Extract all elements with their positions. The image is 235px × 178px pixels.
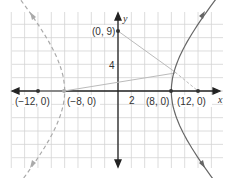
hyperbola-right-branch (171, 0, 235, 178)
hyperbola-chart: (−12, 0) (−8, 0) (8, 0) (12, 0) (0, 9) 2… (0, 0, 235, 178)
tick-label-y-4: 4 (109, 60, 115, 71)
arrow-left-bottom (30, 160, 36, 168)
tick-label-x-2: 2 (129, 95, 135, 106)
label-8: (8, 0) (146, 96, 169, 107)
label-neg8: (−8, 0) (67, 96, 96, 107)
point-12 (196, 89, 200, 93)
point-neg8 (62, 89, 66, 93)
label-12: (12, 0) (177, 96, 206, 107)
segment-dashed-to-focus (175, 72, 198, 91)
y-axis-label: y (122, 13, 128, 24)
label-0-9: (0, 9) (92, 26, 115, 37)
point-0-9 (116, 29, 120, 33)
arrow-left-top (30, 12, 36, 20)
x-axis-label: x (217, 94, 223, 105)
point-8 (169, 89, 173, 93)
label-neg12: (−12, 0) (15, 96, 50, 107)
segment-0-9-to-branch (118, 31, 175, 72)
hyperbola-left-branch (0, 0, 65, 178)
point-neg12 (36, 89, 40, 93)
